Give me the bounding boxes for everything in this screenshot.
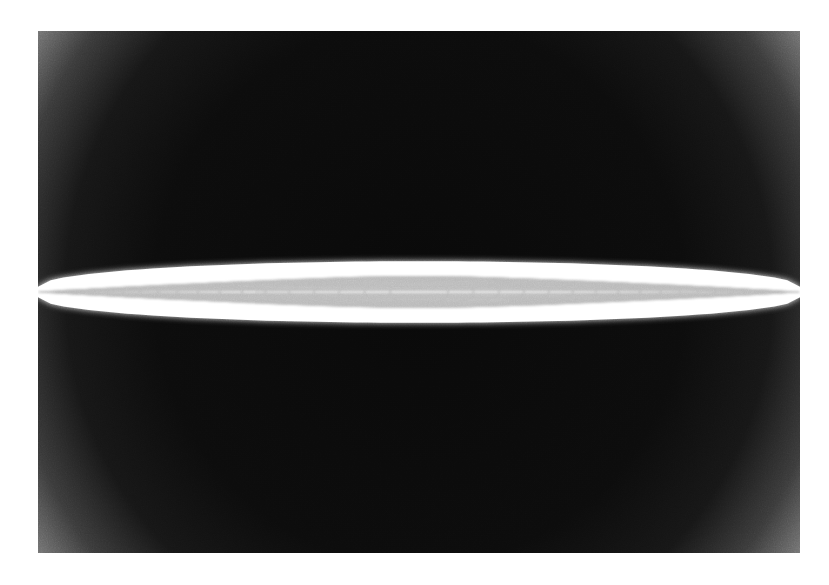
image-plate bbox=[38, 31, 800, 553]
ellipse-family-plot bbox=[38, 31, 800, 553]
figure-page bbox=[0, 0, 829, 585]
film-grain-overlay bbox=[38, 31, 800, 553]
